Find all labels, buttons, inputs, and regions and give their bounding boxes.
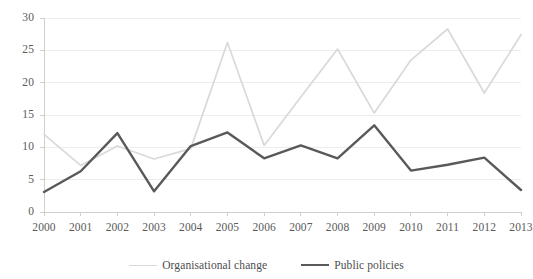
- legend-line-swatch-icon: [129, 265, 157, 266]
- y-axis-labels: 051015202530: [0, 0, 40, 230]
- y-axis-tick-label: 5: [28, 174, 34, 186]
- legend-item-organisational-change[interactable]: Organisational change: [129, 259, 267, 272]
- x-axis-tick-label: 2005: [216, 221, 239, 234]
- x-axis-tick-label: 2012: [473, 221, 496, 234]
- y-axis-tick-label: 30: [22, 12, 34, 24]
- legend-item-public-policies[interactable]: Public policies: [301, 259, 404, 272]
- series-line-2: [44, 125, 521, 192]
- x-axis-tick-label: 2004: [179, 221, 202, 234]
- series-line-1: [44, 29, 521, 165]
- chart-title-strip: [0, 0, 533, 7]
- y-axis-tick-label: 20: [22, 77, 34, 89]
- x-axis-tick-label: 2006: [252, 221, 275, 234]
- x-axis-tick-label: 2011: [436, 221, 459, 234]
- x-axis-tick-label: 2001: [69, 221, 92, 234]
- plot-area: [44, 18, 521, 212]
- x-axis-labels: 2000200120022003200420052006200720082009…: [44, 221, 521, 243]
- chart-legend: Organisational change Public policies: [0, 255, 533, 275]
- x-axis-tick-label: 2009: [363, 221, 386, 234]
- x-axis-tick-label: 2010: [399, 221, 422, 234]
- x-axis-tick-label: 2008: [326, 221, 349, 234]
- legend-line-swatch-icon: [301, 264, 329, 266]
- line-chart: 051015202530 200020012002200320042005200…: [0, 0, 533, 279]
- legend-label: Organisational change: [162, 259, 267, 272]
- x-axis-tick-label: 2000: [32, 221, 55, 234]
- x-axis-tick-label: 2003: [142, 221, 165, 234]
- x-axis-tick-label: 2002: [106, 221, 129, 234]
- data-series-layer: [44, 18, 521, 212]
- x-axis-tick-label: 2007: [289, 221, 312, 234]
- y-axis-tick-label: 0: [28, 206, 34, 218]
- legend-label: Public policies: [334, 259, 404, 272]
- x-axis-tick-label: 2013: [509, 221, 532, 234]
- y-axis-tick-label: 10: [22, 141, 34, 153]
- y-axis-tick-label: 15: [22, 109, 34, 121]
- y-axis-tick-label: 25: [22, 44, 34, 56]
